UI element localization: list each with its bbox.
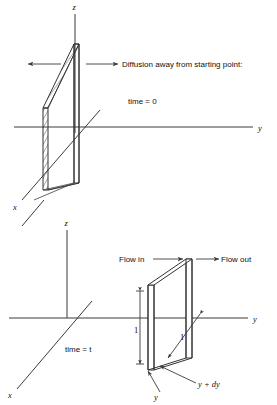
y-leader-line: [148, 371, 160, 392]
top-caption: Diffusion away from starting point:: [122, 60, 242, 69]
control-volume-box: [148, 259, 192, 370]
top-time-label: time = 0: [128, 97, 157, 106]
figure-canvas: z y x: [0, 0, 277, 405]
flow-in-label: Flow in: [119, 255, 144, 264]
height-dimension-label: 1: [134, 325, 138, 335]
slab-depth-edge-bottom: [48, 183, 79, 190]
bottom-x-axis-upper: [22, 200, 44, 226]
y-dy-position-label: y + dy: [197, 379, 220, 389]
bottom-panel: z y x: [7, 200, 257, 402]
box-near-face: [148, 285, 154, 370]
bottom-time-label: time = t: [65, 345, 92, 354]
bottom-z-axis-label: z: [64, 218, 69, 228]
slab-front-face: [43, 108, 48, 190]
depth-dimension-label: 1: [180, 332, 184, 342]
box-top-face: [148, 259, 192, 285]
top-panel: z y x: [12, 2, 262, 212]
bottom-x-axis-label: x: [7, 390, 12, 400]
box-far-face: [186, 259, 192, 358]
top-x-axis-label: x: [12, 202, 17, 212]
bottom-y-axis-label: y: [252, 314, 257, 324]
top-y-axis-label: y: [257, 123, 262, 133]
top-x-axis: [22, 110, 100, 200]
box-bottom-edge-right: [154, 358, 192, 370]
diffusion-figure: z y x: [0, 0, 277, 405]
y-dy-leader-line: [160, 366, 196, 383]
hatched-slab: [34, 44, 79, 200]
y-position-label: y: [153, 392, 158, 402]
flow-out-label: Flow out: [221, 255, 252, 264]
top-z-axis-label: z: [72, 2, 77, 12]
slab-tail-edge: [34, 183, 74, 200]
